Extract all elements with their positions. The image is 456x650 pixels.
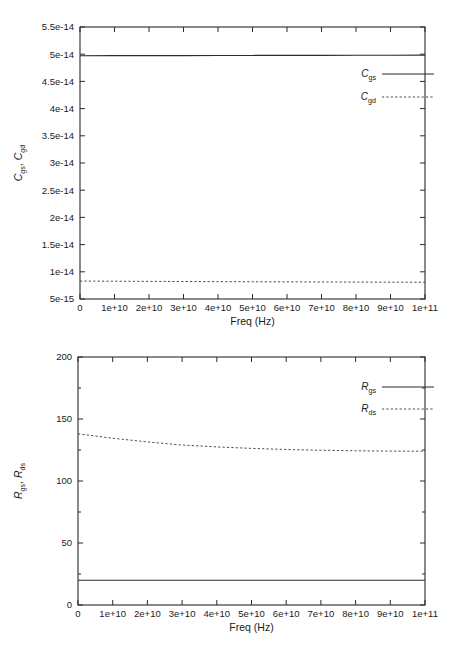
y-tick-label: 0 [67,599,72,610]
y-tick-label: 5.5e-14 [42,21,74,32]
capacitance-plot: 01e+102e+103e+104e+105e+106e+107e+108e+1… [0,0,456,330]
x-tick-label: 4e+10 [205,302,232,313]
series-c-gs [80,55,425,56]
y-tick-label: 3.5e-14 [42,130,74,141]
svg-text:Rgs, Rds: Rgs, Rds [12,462,27,499]
x-axis-title: Freq (Hz) [229,621,273,633]
x-tick-label: 8e+10 [342,608,369,619]
x-tick-label: 9e+10 [377,302,404,313]
x-tick-label: 4e+10 [203,608,230,619]
y-axis-title: Rgs, Rds [12,462,27,499]
y-tick-label: 5e-15 [50,293,74,304]
y-tick-label: 1.5e-14 [42,239,74,250]
x-tick-label: 1e+10 [99,608,126,619]
x-tick-label: 1e+11 [412,608,438,619]
x-tick-label: 0 [75,608,80,619]
y-axis-title: Cgs, Cgd [12,145,27,182]
plot-frame [80,27,425,299]
svg-text:Cgs, Cgd: Cgs, Cgd [12,145,27,182]
x-tick-label: 7e+10 [308,608,335,619]
y-tick-label: 2e-14 [50,212,74,223]
x-tick-label: 1e+11 [412,302,438,313]
x-tick-label: 0 [77,302,82,313]
x-tick-label: 3e+10 [169,608,196,619]
y-tick-label: 2.5e-14 [42,185,74,196]
x-tick-label: 1e+10 [101,302,128,313]
y-tick-label: 150 [56,413,72,424]
y-tick-label: 1e-14 [50,266,74,277]
y-tick-label: 5e-14 [50,49,74,60]
svg-text:Cgs: Cgs [361,68,376,82]
y-tick-label: 50 [61,537,72,548]
x-tick-label: 9e+10 [377,608,404,619]
y-tick-label: 4.5e-14 [42,76,74,87]
series-c-gd [80,281,425,282]
y-tick-label: 4e-14 [50,103,74,114]
y-tick-label: 3e-14 [50,157,74,168]
x-tick-label: 2e+10 [136,302,163,313]
capacitance-figure: 01e+102e+103e+104e+105e+106e+107e+108e+1… [0,0,456,330]
resistance-figure: 01e+102e+103e+104e+105e+106e+107e+108e+1… [0,330,456,650]
x-tick-label: 6e+10 [274,302,301,313]
x-tick-label: 6e+10 [273,608,300,619]
x-tick-label: 5e+10 [239,302,266,313]
svg-text:Rds: Rds [361,403,376,417]
x-tick-label: 2e+10 [134,608,161,619]
y-tick-label: 100 [56,475,72,486]
svg-text:Rgs: Rgs [361,381,376,395]
x-tick-label: 3e+10 [170,302,197,313]
series-r-ds [78,434,425,451]
x-tick-label: 8e+10 [343,302,370,313]
x-tick-label: 5e+10 [238,608,265,619]
resistance-plot: 01e+102e+103e+104e+105e+106e+107e+108e+1… [0,330,456,650]
y-tick-label: 200 [56,351,72,362]
x-axis-title: Freq (Hz) [230,315,274,327]
svg-text:Cgd: Cgd [361,91,376,105]
x-tick-label: 7e+10 [308,302,335,313]
